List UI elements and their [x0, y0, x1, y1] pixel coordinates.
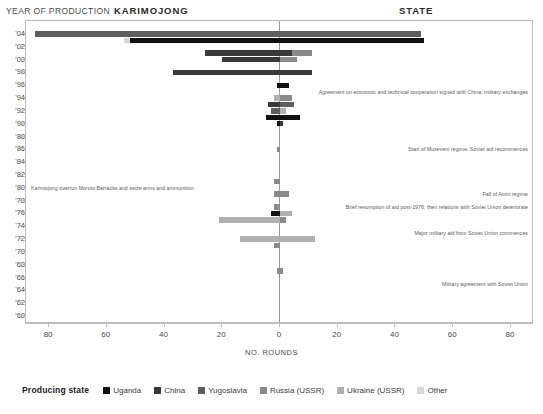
legend-item[interactable]: Yugoslavia — [198, 386, 247, 395]
bar-segment — [280, 70, 312, 76]
legend-label: Uganda — [113, 386, 141, 395]
bar-segment — [271, 108, 280, 114]
bar-segment — [280, 115, 300, 121]
chart-annotation: Major military aid from Soviet Union com… — [414, 230, 528, 236]
x-axis-tick-mark — [164, 323, 165, 327]
legend-swatch — [154, 387, 161, 394]
bar-segment — [280, 83, 289, 89]
zero-axis-line — [279, 21, 280, 322]
x-axis-tick-mark — [452, 323, 453, 327]
chart-annotation: Agreement on economic and technical coop… — [319, 89, 528, 95]
legend-item[interactable]: Ukraine (USSR) — [337, 386, 404, 395]
legend-swatch — [337, 387, 344, 394]
bar-segment — [280, 236, 315, 242]
chart-annotation: Fall of Amin regime — [483, 191, 528, 197]
x-axis-tick-mark — [48, 323, 49, 327]
year-axis-title: YEAR OF PRODUCTION — [6, 6, 110, 16]
legend-title: Producing state — [22, 385, 89, 395]
x-axis-tick-mark — [394, 323, 395, 327]
bar-segment — [280, 121, 283, 127]
bar-segment — [35, 31, 280, 37]
x-axis-tick-label: 40 — [390, 330, 399, 339]
bar-segment — [280, 268, 283, 274]
bar-segment — [280, 108, 286, 114]
bar-segment — [274, 243, 280, 249]
bar-segment — [268, 102, 280, 108]
x-axis-tick-mark — [510, 323, 511, 327]
x-axis-tick-mark — [106, 323, 107, 327]
bar-segment — [277, 147, 280, 153]
x-axis-tick-label: 20 — [332, 330, 341, 339]
bar-segment — [219, 217, 280, 223]
bar-segment — [280, 95, 292, 101]
x-axis-tick-label: 60 — [448, 330, 457, 339]
bar-segment — [280, 217, 286, 223]
x-axis-tick-mark — [337, 323, 338, 327]
legend-swatch — [198, 387, 205, 394]
x-axis-tick-label: 0 — [277, 330, 281, 339]
bar-segment — [274, 179, 280, 185]
bar-segment — [130, 38, 280, 44]
bar-segment — [280, 38, 424, 44]
legend-swatch — [260, 387, 267, 394]
x-axis-tick-label: 60 — [101, 330, 110, 339]
x-axis-tick-mark — [221, 323, 222, 327]
bar-segment — [280, 102, 294, 108]
x-axis-tick-label: 80 — [44, 330, 53, 339]
legend-item[interactable]: Russia (USSR) — [260, 386, 324, 395]
chart-annotation: Start of Museveni regime. Soviet aid rec… — [408, 146, 528, 152]
legend-item[interactable]: Uganda — [103, 386, 141, 395]
x-axis-tick-label: 80 — [505, 330, 514, 339]
chart-page: YEAR OF PRODUCTION KARIMOJONG STATE '04'… — [0, 0, 543, 414]
bar-segment — [280, 211, 292, 217]
right-panel-title: STATE — [399, 5, 433, 16]
legend-label: Russia (USSR) — [270, 386, 324, 395]
bar-segment — [280, 57, 297, 63]
legend-label: Other — [427, 386, 447, 395]
chart-annotation: Military agreement with Soviet Union — [442, 281, 528, 287]
legend-items: UgandaChinaYugoslaviaRussia (USSR)Ukrain… — [103, 386, 460, 395]
x-axis-label: NO. ROUNDS — [0, 348, 543, 357]
legend-label: Ukraine (USSR) — [347, 386, 404, 395]
bar-segment — [271, 211, 280, 217]
legend: Producing state UgandaChinaYugoslaviaRus… — [22, 385, 460, 395]
x-axis-tick-mark — [279, 323, 280, 327]
legend-swatch — [417, 387, 424, 394]
plot-area: Agreement on economic and technical coop… — [25, 20, 533, 323]
bar-segment — [205, 50, 280, 56]
bar-segment — [240, 236, 280, 242]
legend-item[interactable]: Other — [417, 386, 447, 395]
bar-segment — [292, 50, 312, 56]
legend-item[interactable]: China — [154, 386, 185, 395]
bar-segment — [274, 204, 280, 210]
legend-swatch — [103, 387, 110, 394]
left-panel-title: KARIMOJONG — [114, 5, 188, 16]
chart-annotation: Karimojong overrun Moroto Barracks and s… — [31, 185, 194, 191]
bar-segment — [280, 191, 289, 197]
bar-segment — [280, 31, 421, 37]
bar-segment — [266, 115, 280, 121]
x-axis-tick-label: 20 — [217, 330, 226, 339]
chart-annotation: Brief resumption of aid post-1976, then … — [346, 204, 528, 210]
bar-segment — [222, 57, 280, 63]
x-axis-tick-label: 40 — [159, 330, 168, 339]
legend-label: China — [164, 386, 185, 395]
bar-segment — [173, 70, 280, 76]
bar-segment — [277, 83, 280, 89]
legend-label: Yugoslavia — [208, 386, 247, 395]
